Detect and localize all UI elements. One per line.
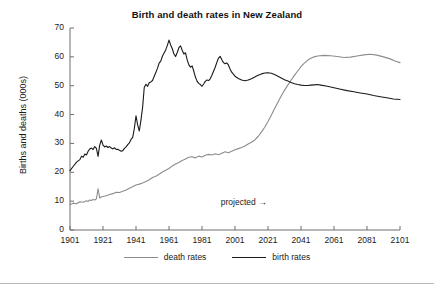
- y-tick-10: 10: [44, 195, 64, 205]
- legend-item-death-rates: death rates: [124, 252, 207, 262]
- y-tick-20: 20: [44, 166, 64, 176]
- x-tick-1981: 1981: [184, 235, 220, 245]
- chart-legend: death rates birth rates: [0, 252, 434, 262]
- chart-container: Birth and death rates in New Zealand Bir…: [0, 0, 434, 290]
- x-tick-2041: 2041: [283, 235, 319, 245]
- x-tick-2021: 2021: [250, 235, 286, 245]
- chart-plot-area: [0, 0, 434, 290]
- x-tick-2101: 2101: [382, 235, 418, 245]
- x-tick-2001: 2001: [217, 235, 253, 245]
- y-tick-0: 0: [44, 224, 64, 234]
- legend-item-birth-rates: birth rates: [232, 252, 310, 262]
- y-tick-40: 40: [44, 109, 64, 119]
- x-tick-1901: 1901: [52, 235, 88, 245]
- legend-label-birth-rates: birth rates: [272, 252, 310, 262]
- chart-series: [70, 40, 400, 204]
- y-tick-60: 60: [44, 51, 64, 61]
- x-tick-2061: 2061: [316, 235, 352, 245]
- bottom-divider: [0, 283, 434, 284]
- legend-label-death-rates: death rates: [164, 252, 207, 262]
- x-tick-2081: 2081: [349, 235, 385, 245]
- y-tick-30: 30: [44, 137, 64, 147]
- series-line-birth-rates: [70, 40, 400, 170]
- y-tick-50: 50: [44, 80, 64, 90]
- projected-annotation: projected →: [221, 197, 267, 207]
- legend-swatch-death-rates: [124, 257, 158, 258]
- y-tick-70: 70: [44, 22, 64, 32]
- x-tick-1921: 1921: [85, 235, 121, 245]
- legend-swatch-birth-rates: [232, 257, 266, 258]
- x-tick-1941: 1941: [118, 235, 154, 245]
- x-tick-1961: 1961: [151, 235, 187, 245]
